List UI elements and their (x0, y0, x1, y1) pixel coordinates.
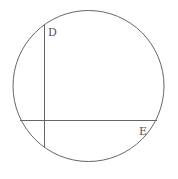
geometry-diagram: D E (0, 0, 178, 179)
label-e: E (139, 125, 147, 138)
label-d: D (48, 26, 57, 39)
circle (13, 11, 164, 162)
